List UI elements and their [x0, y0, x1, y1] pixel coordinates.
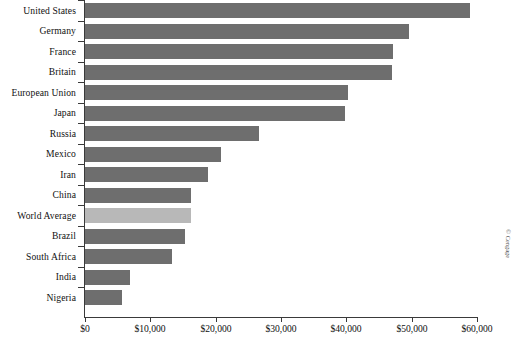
- x-axis-tick: [346, 317, 347, 322]
- x-axis-tick: [477, 317, 478, 322]
- y-axis-tick: [78, 205, 84, 206]
- bar: [85, 249, 172, 264]
- category-label: India: [0, 272, 76, 282]
- category-label: Nigeria: [0, 293, 76, 303]
- y-axis-tick: [78, 287, 84, 288]
- bar: [85, 208, 191, 223]
- y-axis-line: [84, 0, 85, 317]
- x-axis-tick: [150, 317, 151, 322]
- y-axis-tick: [78, 164, 84, 165]
- x-axis-tick-label: $0: [80, 324, 90, 334]
- bar: [85, 65, 392, 80]
- x-axis-tick-label: $30,000: [265, 324, 296, 334]
- category-label: Britain: [0, 67, 76, 77]
- category-label: European Union: [0, 88, 76, 98]
- category-label: Japan: [0, 108, 76, 118]
- x-axis-tick-label: $20,000: [200, 324, 231, 334]
- plot-area: [85, 0, 506, 317]
- bar: [85, 167, 208, 182]
- bar: [85, 188, 191, 203]
- x-axis-tick-label: $10,000: [134, 324, 165, 334]
- x-axis-tick: [281, 317, 282, 322]
- bar: [85, 24, 409, 39]
- bar: [85, 44, 393, 59]
- y-axis-tick: [78, 21, 84, 22]
- category-label: South Africa: [0, 252, 76, 262]
- y-axis-tick: [78, 185, 84, 186]
- category-label: Germany: [0, 26, 76, 36]
- y-axis-tick: [78, 123, 84, 124]
- y-axis-tick: [78, 0, 84, 1]
- y-axis-tick: [78, 41, 84, 42]
- category-label: France: [0, 47, 76, 57]
- bar: [85, 290, 122, 305]
- x-axis-tick-label: $50,000: [396, 324, 427, 334]
- x-axis-tick-label: $40,000: [330, 324, 361, 334]
- category-label: China: [0, 190, 76, 200]
- copyright-credit: © Cengage: [505, 229, 511, 258]
- bar: [85, 85, 348, 100]
- x-axis-tick: [85, 317, 86, 322]
- x-axis-tick: [412, 317, 413, 322]
- category-label: Brazil: [0, 231, 76, 241]
- bar: [85, 147, 221, 162]
- bar: [85, 229, 185, 244]
- y-axis-tick: [78, 82, 84, 83]
- bar: [85, 3, 470, 18]
- category-label: Russia: [0, 129, 76, 139]
- bar: [85, 106, 345, 121]
- category-axis-labels: United StatesGermanyFranceBritainEuropea…: [0, 0, 80, 317]
- y-axis-tick: [78, 103, 84, 104]
- bar: [85, 270, 130, 285]
- y-axis-tick: [78, 144, 84, 145]
- y-axis-tick: [78, 267, 84, 268]
- category-label: United States: [0, 6, 76, 16]
- y-axis-tick: [78, 62, 84, 63]
- category-label: Mexico: [0, 149, 76, 159]
- category-label: Iran: [0, 170, 76, 180]
- x-axis-tick-label: $60,000: [461, 324, 492, 334]
- bar: [85, 126, 259, 141]
- category-label: World Average: [0, 211, 76, 221]
- y-axis-tick: [78, 226, 84, 227]
- y-axis-tick: [78, 246, 84, 247]
- x-axis-tick: [216, 317, 217, 322]
